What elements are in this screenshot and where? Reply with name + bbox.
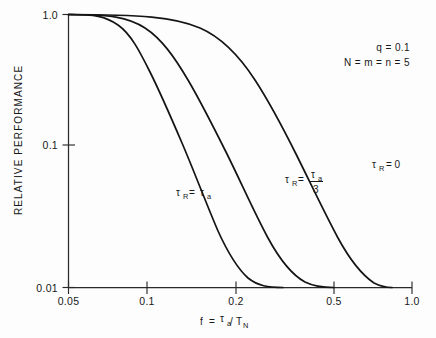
y-tick-label-1.0: 1.0	[43, 9, 59, 21]
log-log-chart: 1.0 0.1 0.01 0.05 0.1 0.2 0.5 1.0 RELATI…	[0, 0, 436, 338]
x-tick-label-0.5: 0.5	[326, 295, 342, 307]
x-axis-title-tau: τ	[220, 313, 224, 324]
x-axis-title-f: f	[200, 316, 203, 327]
figure-container: 1.0 0.1 0.01 0.05 0.1 0.2 0.5 1.0 RELATI…	[0, 0, 436, 338]
curve2-eq: =	[298, 174, 304, 185]
curve2-den: 3	[313, 184, 319, 195]
y-tick-label-0.1: 0.1	[43, 139, 59, 151]
curve1-tau2: τ	[200, 187, 204, 198]
curve3-tau: τ	[372, 159, 376, 170]
x-axis-title-slash: /	[230, 316, 233, 327]
curve1-tau: τ	[176, 187, 180, 198]
curve2-num-tau: τ	[311, 169, 315, 180]
x-tick-label-0.1: 0.1	[139, 295, 155, 307]
annotation-n: N = m = n = 5	[344, 57, 410, 68]
x-tick-label-0.2: 0.2	[228, 295, 244, 307]
curve2-sub-r: R	[292, 179, 297, 188]
curve1-sub-r: R	[183, 192, 188, 201]
y-tick-label-0.01: 0.01	[36, 282, 58, 294]
curve1-eq: =	[189, 187, 195, 198]
x-tick-label-1.0: 1.0	[404, 295, 420, 307]
curve2-tau: τ	[285, 174, 289, 185]
x-tick-label-0.05: 0.05	[58, 295, 80, 307]
annotation-q: q = 0.1	[376, 42, 410, 53]
curve3-sub-r: R	[379, 164, 384, 173]
curve3-eq: = 0	[386, 159, 401, 170]
y-axis-title: RELATIVE PERFORMANCE	[13, 65, 24, 215]
x-axis-title-T: T	[236, 316, 242, 327]
x-axis-title-eq: =	[209, 316, 215, 327]
x-axis-title-T-sub: N	[243, 321, 248, 330]
